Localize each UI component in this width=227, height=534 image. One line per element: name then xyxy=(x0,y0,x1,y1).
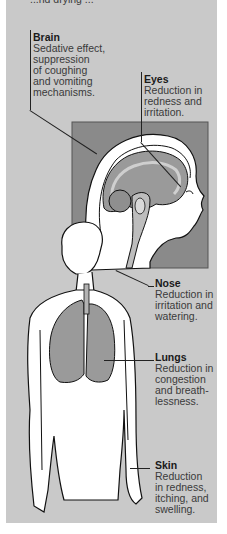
cut-off-top-text: ...nd drying ... xyxy=(30,0,94,5)
nose-leader-line-horizontal xyxy=(148,286,154,287)
skin-leader-line xyxy=(130,468,150,469)
label-brain-description: Sedative effect, suppression of coughing… xyxy=(33,43,105,98)
eyes-leader-line xyxy=(141,72,142,142)
label-lungs-description: Reduction in congestion and breath- less… xyxy=(155,363,213,407)
lungs-leader-line xyxy=(104,360,154,361)
label-lungs: Lungs Reduction in congestion and breath… xyxy=(155,352,213,407)
brain-leader-line xyxy=(30,30,31,110)
label-nose: Nose Reduction in irritation and waterin… xyxy=(155,278,213,322)
label-eyes: Eyes Reduction in redness and irritation… xyxy=(144,74,202,118)
label-skin: Skin Reduction in redness, itching, and … xyxy=(155,460,209,515)
label-eyes-description: Reduction in redness and irritation. xyxy=(144,85,202,118)
label-brain: Brain Sedative effect, suppression of co… xyxy=(33,32,105,98)
label-skin-description: Reduction in redness, itching, and swell… xyxy=(155,471,209,515)
label-nose-description: Reduction in irritation and watering. xyxy=(155,289,213,322)
